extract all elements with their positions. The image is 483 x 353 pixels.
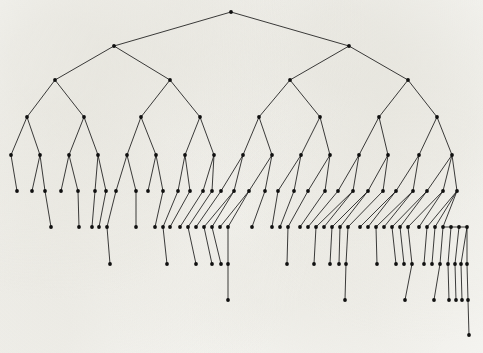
tree-edge (170, 80, 200, 117)
tree-edge (220, 191, 249, 227)
tree-node (105, 225, 109, 229)
tree-node (178, 225, 182, 229)
tree-node (406, 78, 410, 82)
tree-node (457, 225, 461, 229)
tree-edge (141, 117, 156, 155)
tree-node (176, 189, 180, 193)
tree-node (96, 153, 100, 157)
tree-node (357, 153, 361, 157)
tree-node (382, 225, 386, 229)
tree-edge (127, 117, 141, 155)
tree-node (447, 298, 451, 302)
tree-edge (141, 80, 170, 117)
tree-node (338, 225, 342, 229)
tree-edge (84, 117, 98, 155)
tree-edge (384, 191, 413, 227)
tree-node (336, 189, 340, 193)
tree-edge (163, 227, 167, 264)
tree-node (467, 333, 471, 337)
tree-node (425, 189, 429, 193)
tree-edge (114, 12, 231, 46)
tree-node (257, 115, 261, 119)
tree-edge (92, 191, 95, 227)
tree-node (328, 262, 332, 266)
tree-edge (448, 264, 449, 300)
tree-node (460, 298, 464, 302)
tree-edge (455, 264, 456, 300)
tree-edge (69, 155, 78, 191)
tree-edge (27, 80, 55, 117)
tree-edge (155, 191, 163, 227)
tree-node (330, 225, 334, 229)
tree-node (49, 225, 53, 229)
tree-edge (330, 227, 332, 264)
tree-edge (55, 46, 114, 80)
tree-node (351, 189, 355, 193)
tree-edge (204, 227, 212, 264)
tree-edge (78, 191, 79, 227)
tree-edge (185, 117, 200, 155)
tree-node (134, 225, 138, 229)
tree-edge (95, 155, 98, 191)
tree-node (168, 225, 172, 229)
tree-node (241, 153, 245, 157)
tree-edge (400, 227, 404, 264)
tree-node (210, 189, 214, 193)
tree-edge (290, 80, 320, 117)
tree-node (286, 225, 290, 229)
tree-edge (440, 227, 443, 264)
tree-node (386, 153, 390, 157)
tree-node (210, 262, 214, 266)
tree-node (417, 225, 421, 229)
tree-edge (287, 227, 288, 264)
tree-node (9, 153, 13, 157)
tree-node (288, 78, 292, 82)
tree-node (375, 262, 379, 266)
tree-edge (231, 12, 349, 46)
tree-node (30, 189, 34, 193)
tree-node (417, 153, 421, 157)
tree-node (112, 44, 116, 48)
tree-node (433, 225, 437, 229)
tree-node (153, 225, 157, 229)
tree-node (410, 262, 414, 266)
tree-node (430, 262, 434, 266)
tree-node (390, 225, 394, 229)
tree-node (441, 225, 445, 229)
tree-node (441, 189, 445, 193)
tree-edge (461, 264, 462, 300)
tree-node (247, 189, 251, 193)
tree-edge (301, 117, 320, 155)
tree-node-layer (9, 10, 471, 337)
tree-edge (243, 117, 259, 155)
tree-node (425, 225, 429, 229)
tree-node (394, 262, 398, 266)
tree-node (250, 225, 254, 229)
tree-node (328, 153, 332, 157)
tree-edge (408, 227, 412, 264)
tree-node (276, 189, 280, 193)
tree-edge (349, 46, 408, 80)
tree-node (226, 298, 230, 302)
tree-root-node (229, 10, 233, 14)
tree-node (194, 225, 198, 229)
tree-node (450, 153, 454, 157)
tree-edge (346, 227, 348, 264)
tree-node (218, 225, 222, 229)
tree-node (377, 115, 381, 119)
tree-edge (234, 155, 243, 191)
tree-node (465, 225, 469, 229)
tree-edge (200, 117, 214, 155)
tree-node (90, 225, 94, 229)
tree-node (344, 262, 348, 266)
tree-node (422, 262, 426, 266)
tree-node (366, 225, 370, 229)
tree-node (343, 298, 347, 302)
tree-edge (443, 191, 457, 227)
tree-node (285, 262, 289, 266)
tree-edge (443, 155, 452, 191)
tree-edge (432, 227, 435, 264)
tree-edge (332, 191, 368, 227)
tree-node (298, 225, 302, 229)
tree-node (25, 115, 29, 119)
